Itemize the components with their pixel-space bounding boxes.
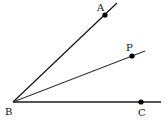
- label-a: A: [96, 2, 105, 13]
- point-a: [102, 12, 107, 17]
- ray-bp: [13, 51, 145, 102]
- ray-ba: [13, 3, 117, 102]
- point-p: [129, 53, 134, 58]
- label-p: P: [126, 42, 133, 53]
- label-b: B: [5, 106, 12, 117]
- point-c: [138, 99, 143, 104]
- label-c: C: [138, 107, 146, 118]
- angle-diagram: A P C B: [0, 0, 168, 124]
